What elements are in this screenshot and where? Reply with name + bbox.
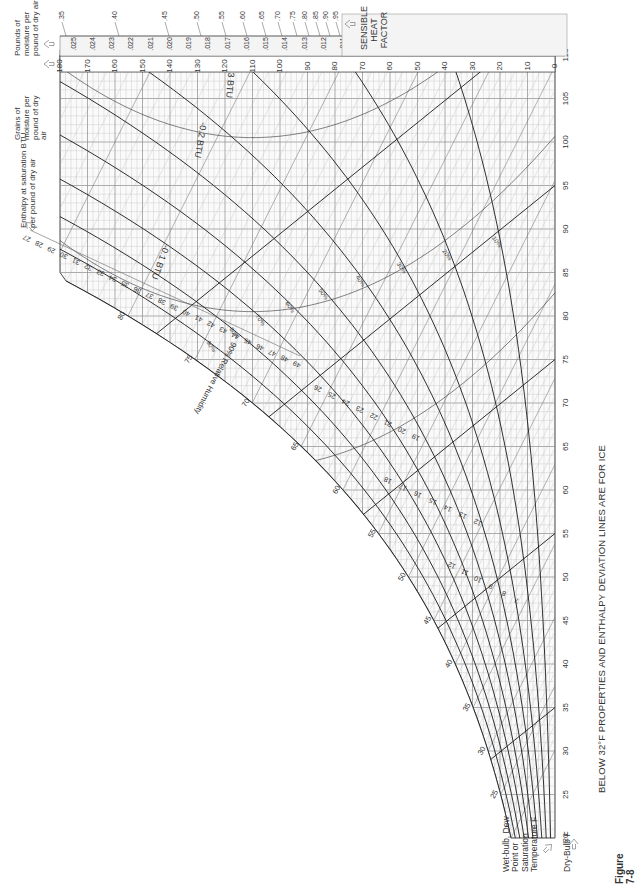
pounds-tick: .015 bbox=[262, 37, 269, 51]
grains-tick: 40 bbox=[440, 61, 449, 70]
grains-tick: 50 bbox=[413, 61, 422, 70]
shf-tick: .95 bbox=[332, 11, 339, 21]
saturation-temp-label: 25 bbox=[488, 788, 500, 800]
dry-bulb-tick: 95 bbox=[561, 181, 570, 190]
dry-bulb-tick: 105 bbox=[561, 91, 570, 105]
grains-tick: 150 bbox=[138, 59, 147, 73]
shf-tick: .85 bbox=[312, 11, 319, 21]
dry-bulb-tick: 90 bbox=[561, 224, 570, 233]
dry-bulb-tick: 40 bbox=[561, 659, 570, 668]
dry-bulb-tick: 65 bbox=[561, 442, 570, 451]
grains-tick: 80 bbox=[330, 61, 339, 70]
saturation-temp-label: 35 bbox=[461, 701, 473, 713]
shf-tick: .35 bbox=[58, 11, 65, 21]
grains-tick: 110 bbox=[248, 59, 257, 72]
dry-bulb-tick: 25 bbox=[561, 790, 570, 799]
grains-tick: 170 bbox=[83, 59, 92, 73]
grains-tick: 180 bbox=[55, 59, 64, 73]
grains-tick: 60 bbox=[385, 61, 394, 70]
grains-tick: 90 bbox=[303, 61, 312, 70]
pounds-tick: .016 bbox=[243, 37, 250, 51]
enthalpy-axis-label: Enthalpy at saturation BTU per pound of … bbox=[20, 130, 38, 228]
dry-bulb-tick: 35 bbox=[561, 703, 570, 712]
dry-bulb-tick: 85 bbox=[561, 268, 570, 277]
dry-bulb-tick: 55 bbox=[561, 529, 570, 538]
shf-tick: .90 bbox=[322, 11, 329, 21]
dry-bulb-tick: 75 bbox=[561, 355, 570, 364]
shf-tick: .45 bbox=[161, 11, 168, 21]
grains-tick: 130 bbox=[193, 59, 202, 73]
pounds-tick: .018 bbox=[204, 37, 211, 51]
pounds-tick: .021 bbox=[147, 37, 154, 51]
dry-bulb-tick: 70 bbox=[561, 398, 570, 407]
pounds-axis-label: Pounds of moisture per pound of dry air bbox=[14, 0, 40, 56]
wet-bulb-axis-label: Wet-bulb, Dew Point or Saturation Temper… bbox=[502, 806, 539, 872]
dry-bulb-tick: 45 bbox=[561, 616, 570, 625]
pounds-tick: .025 bbox=[70, 37, 77, 51]
enthalpy-tick: 29 bbox=[46, 245, 56, 255]
arrow-icon bbox=[542, 842, 555, 855]
grains-tick: 10 bbox=[523, 61, 532, 70]
sensible-heat-factor-label: SENSIBLE HEAT FACTOR bbox=[360, 10, 390, 50]
grains-tick: 100 bbox=[275, 59, 284, 73]
arrow-icon bbox=[44, 40, 54, 48]
pounds-tick: .012 bbox=[320, 37, 327, 51]
grains-tick: 140 bbox=[165, 59, 174, 73]
ice-footnote: BELOW 32°F PROPERTIES AND ENTHALPY DEVIA… bbox=[596, 445, 607, 793]
grains-tick: 30 bbox=[468, 61, 477, 70]
grains-tick: 0 bbox=[550, 63, 559, 68]
shf-tick: .60 bbox=[239, 11, 246, 21]
grains-tick: 70 bbox=[358, 61, 367, 70]
saturation-temp-label: 30 bbox=[476, 745, 488, 757]
enthalpy-tick: 28 bbox=[34, 239, 44, 249]
dry-bulb-tick: 30 bbox=[561, 746, 570, 755]
dry-bulb-tick: 80 bbox=[561, 311, 570, 320]
shf-tick: .80 bbox=[301, 11, 308, 21]
shf-tick: .40 bbox=[111, 11, 118, 21]
arrow-icon bbox=[44, 60, 54, 68]
specific-volume-line bbox=[60, 708, 555, 884]
enthalpy-tick: 27 bbox=[22, 234, 32, 244]
shf-tick: .50 bbox=[193, 11, 200, 21]
pounds-tick: .023 bbox=[108, 37, 115, 51]
figure-label: Figure 7-8 bbox=[614, 853, 636, 884]
shf-tick: .75 bbox=[289, 11, 296, 21]
pounds-tick: .020 bbox=[166, 37, 173, 51]
shf-tick: .55 bbox=[218, 11, 225, 21]
dry-bulb-axis-label: Dry-Bulb F bbox=[563, 831, 572, 872]
dry-bulb-tick: 50 bbox=[561, 572, 570, 581]
pounds-tick: .022 bbox=[127, 37, 134, 51]
pounds-tick: .013 bbox=[301, 37, 308, 51]
pounds-tick: .017 bbox=[224, 37, 231, 51]
shf-tick: .70 bbox=[274, 11, 281, 21]
shf-tick: .65 bbox=[258, 11, 265, 21]
grains-tick: 120 bbox=[220, 59, 229, 73]
dry-bulb-tick: 100 bbox=[561, 135, 570, 149]
grains-tick: 20 bbox=[495, 61, 504, 70]
pounds-tick: .014 bbox=[281, 37, 288, 51]
pounds-tick: .019 bbox=[185, 37, 192, 51]
dry-bulb-tick: 60 bbox=[561, 485, 570, 494]
pounds-tick: .024 bbox=[89, 37, 96, 51]
grains-tick: 160 bbox=[110, 59, 119, 73]
